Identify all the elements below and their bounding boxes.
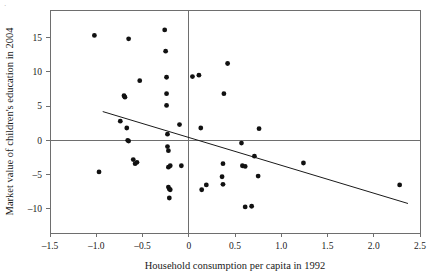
data-point xyxy=(167,196,172,201)
reference-lines xyxy=(50,10,420,233)
corner-mark-label: · xyxy=(4,2,6,10)
data-point xyxy=(164,75,169,80)
data-point xyxy=(243,164,248,169)
data-point xyxy=(239,141,244,146)
data-point xyxy=(179,163,184,168)
data-point xyxy=(163,49,168,54)
data-point xyxy=(165,132,170,137)
data-point xyxy=(126,139,131,144)
x-axis-title: Household consumption per capita in 1992 xyxy=(145,260,326,271)
plot-canvas: · –1.5–1.0–0.500.51.01.52.02.5 151050–5–… xyxy=(0,0,437,278)
data-point xyxy=(301,161,306,166)
data-point xyxy=(124,126,129,131)
data-point xyxy=(164,91,169,96)
data-point xyxy=(256,174,261,179)
data-point xyxy=(397,183,402,188)
x-tick-label: 0 xyxy=(186,241,191,251)
data-point xyxy=(252,154,257,159)
data-point xyxy=(135,160,140,165)
data-points xyxy=(92,27,402,209)
x-tick-label: 2.0 xyxy=(368,241,380,251)
y-tick-label: 10 xyxy=(33,67,43,77)
data-point xyxy=(126,36,131,41)
data-point xyxy=(198,126,203,131)
axis-titles: Household consumption per capita in 1992… xyxy=(4,27,325,271)
x-axis-ticks: –1.5–1.0–0.500.51.01.52.02.5 xyxy=(41,233,427,251)
y-axis-ticks: 151050–5–10 xyxy=(27,33,50,215)
data-point xyxy=(168,163,173,168)
data-point xyxy=(118,119,123,124)
data-point xyxy=(92,33,97,38)
data-point xyxy=(162,27,167,32)
data-point xyxy=(204,183,209,188)
data-point xyxy=(165,144,170,149)
y-tick-label: –5 xyxy=(32,170,43,180)
data-point xyxy=(222,91,227,96)
scatter-plot-figure: · –1.5–1.0–0.500.51.01.52.02.5 151050–5–… xyxy=(0,0,437,278)
data-point xyxy=(243,205,248,210)
data-point xyxy=(137,78,142,83)
data-point xyxy=(97,170,102,175)
data-point xyxy=(220,174,225,179)
data-point xyxy=(199,187,204,192)
corner-mark: · xyxy=(4,2,6,10)
x-tick-label: 1.0 xyxy=(275,241,287,251)
y-tick-label: 5 xyxy=(37,101,42,111)
y-tick-label: –10 xyxy=(27,204,43,214)
x-tick-label: 0.5 xyxy=(229,241,241,251)
plot-frame xyxy=(50,10,420,233)
data-point xyxy=(257,126,262,131)
data-point xyxy=(249,204,254,209)
x-tick-label: 1.5 xyxy=(322,241,334,251)
data-point xyxy=(166,148,171,153)
x-tick-label: –0.5 xyxy=(133,241,151,251)
x-tick-label: 2.5 xyxy=(414,241,426,251)
data-point xyxy=(123,95,128,100)
y-axis-title: Market value of children's education in … xyxy=(4,27,15,216)
y-tick-label: 15 xyxy=(33,33,43,43)
x-tick-label: –1.5 xyxy=(41,241,59,251)
data-point xyxy=(225,61,230,66)
data-point xyxy=(190,74,195,79)
x-tick-label: –1.0 xyxy=(87,241,105,251)
data-point xyxy=(197,73,202,78)
data-point xyxy=(177,122,182,127)
data-point xyxy=(168,187,173,192)
y-tick-label: 0 xyxy=(37,136,42,146)
data-point xyxy=(221,182,226,187)
data-point xyxy=(164,103,169,108)
data-point xyxy=(221,161,226,166)
